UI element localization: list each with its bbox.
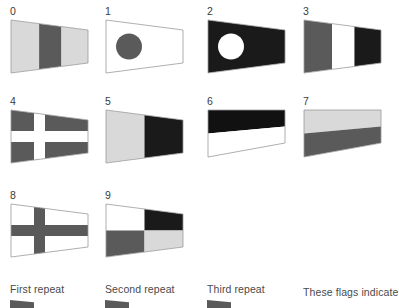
- flag-number-label-3: 3: [303, 6, 309, 17]
- pennant-four-icon: [10, 109, 89, 164]
- flag-number-label-0: 0: [10, 6, 16, 17]
- caption-2: Third repeat: [207, 283, 265, 295]
- pennant-six-icon: [207, 109, 286, 158]
- flag-number-label-1: 1: [105, 6, 111, 17]
- flag-number-label-6: 6: [207, 96, 213, 107]
- caption-1: Second repeat: [105, 283, 175, 295]
- flag-number-label-5: 5: [105, 96, 111, 107]
- pennant-seven-icon: [303, 109, 382, 158]
- pennant-zero-icon: [10, 19, 89, 74]
- flag-number-label-7: 7: [303, 96, 309, 107]
- caption-0: First repeat: [10, 283, 64, 295]
- flag-number-label-9: 9: [105, 190, 111, 201]
- repeat-pennant-stub-second: [105, 300, 131, 308]
- pennant-three-icon: [303, 19, 382, 74]
- repeat-pennant-stub-first: [10, 300, 36, 308]
- pennant-five-icon: [105, 109, 184, 164]
- flag-number-label-4: 4: [10, 96, 16, 107]
- flag-number-label-8: 8: [10, 190, 16, 201]
- pennant-one-icon: [105, 19, 184, 74]
- flag-number-label-2: 2: [207, 6, 213, 17]
- pennant-two-icon: [207, 19, 286, 74]
- caption-3: These flags indicate: [303, 286, 398, 298]
- pennant-eight-icon: [10, 203, 89, 258]
- pennant-nine-icon: [105, 203, 184, 258]
- repeat-pennant-stub-third: [207, 300, 233, 308]
